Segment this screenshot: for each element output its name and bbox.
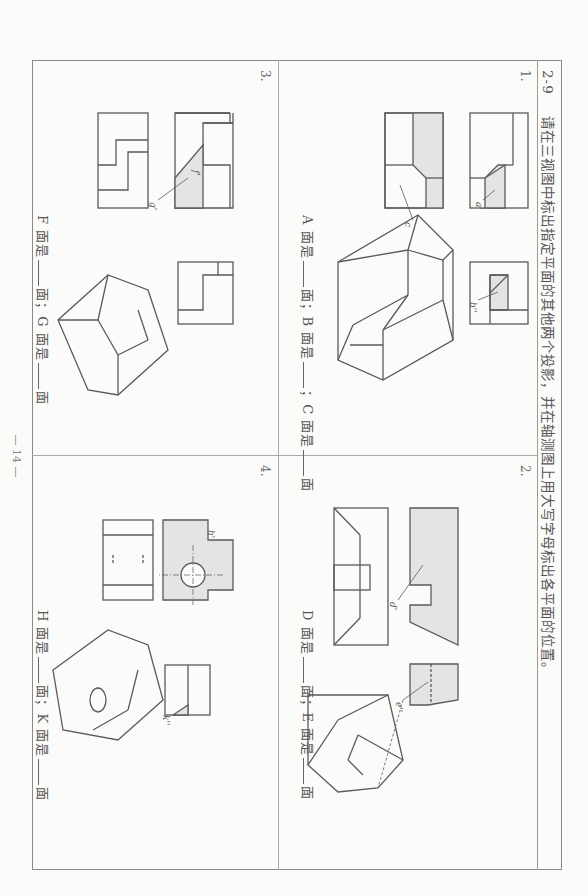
problem-2-side-view: [410, 664, 458, 705]
problem-2-top-view: [334, 508, 388, 645]
answer-blank-b[interactable]: [303, 362, 314, 388]
answer-blank-e[interactable]: [303, 758, 314, 784]
label-e-double-prime: e'': [394, 702, 404, 712]
answer-blank-a[interactable]: [303, 261, 314, 287]
problem-1-front-view: [470, 113, 528, 208]
answer-blank-f[interactable]: [38, 260, 49, 286]
label-f-prime: f': [191, 169, 201, 176]
problem-1-isometric: [338, 215, 453, 380]
answer-blank-d[interactable]: [303, 657, 314, 683]
label-g-prime: g': [148, 202, 158, 210]
problem-2-isometric: [308, 695, 403, 792]
rotated-textbook-page: 2-9 请在三视图中标出指定平面的其他两个投影，并在轴测图上用大写字母标出各平面…: [0, 0, 588, 896]
label-b-double-prime: b'': [468, 302, 478, 313]
answer-blank-h[interactable]: [38, 657, 49, 683]
label-h-prime: h': [206, 530, 216, 538]
answer-blank-k[interactable]: [38, 759, 49, 785]
problem-3-front-view: [175, 113, 233, 208]
problem-4-answer: H 面是面；K 面是面: [34, 610, 53, 801]
answer-blank-g[interactable]: [38, 363, 49, 389]
label-d-prime: d': [388, 602, 398, 610]
page-number: — 14 —: [10, 435, 23, 478]
problem-4-side-view: [165, 665, 210, 715]
answer-blank-c[interactable]: [303, 450, 314, 476]
problem-2-answer: D 面是面；E 面是面: [299, 610, 318, 800]
problem-3-side-view: [178, 262, 233, 324]
problem-4-front-view: [158, 520, 233, 605]
problem-1-top-view: [385, 113, 443, 208]
label-a-prime: a': [474, 202, 484, 210]
drawings-layer: a' c b'' d' e'' f' g' h' k'': [0, 0, 588, 896]
label-c: c: [403, 222, 413, 227]
problem-3-top-view: [98, 113, 148, 208]
problem-4-isometric: [53, 630, 163, 740]
problem-2-front-view: [410, 508, 458, 645]
problem-3-answer: F 面是面；G 面是面: [34, 215, 53, 405]
label-k-double-prime: k'': [161, 715, 171, 725]
problem-1-answer: A 面是面；B 面是；C 面是面: [299, 215, 318, 492]
problem-4-top-view: [103, 520, 153, 600]
problem-1-side-view: [470, 262, 528, 324]
problem-3-isometric: [58, 275, 168, 395]
